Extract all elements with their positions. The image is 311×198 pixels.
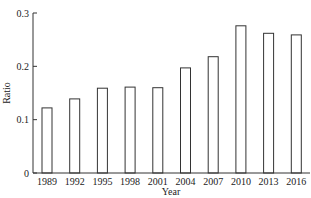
y-ticks: 00.10.20.3	[17, 8, 38, 179]
x-tick-label: 2013	[259, 176, 279, 187]
x-axis-title: Year	[162, 186, 181, 197]
y-axis-title: Ratio	[1, 82, 12, 104]
bar-1989	[42, 108, 52, 173]
bar-2013	[264, 33, 274, 173]
bar-2001	[153, 88, 163, 173]
x-tick-label: 1989	[37, 176, 57, 187]
bar-chart: 00.10.20.3 19891992199519982001200420072…	[0, 0, 311, 198]
x-tick-label: 1992	[65, 176, 85, 187]
x-tick-label: 1995	[92, 176, 112, 187]
bar-2007	[208, 57, 218, 173]
x-tick-label: 2007	[203, 176, 223, 187]
bars	[42, 26, 301, 173]
bar-1992	[70, 99, 80, 173]
bar-1995	[97, 88, 107, 173]
x-tick-label: 2010	[231, 176, 251, 187]
bar-1998	[125, 87, 135, 173]
y-tick-label: 0.1	[17, 114, 30, 125]
bar-2016	[291, 35, 301, 173]
y-tick-label: 0.3	[17, 8, 30, 19]
bar-2004	[181, 68, 191, 173]
x-tick-label: 1998	[120, 176, 140, 187]
y-tick-label: 0.2	[17, 61, 30, 72]
y-tick-label: 0	[24, 168, 29, 179]
bar-2010	[236, 26, 246, 173]
x-tick-label: 2016	[286, 176, 306, 187]
